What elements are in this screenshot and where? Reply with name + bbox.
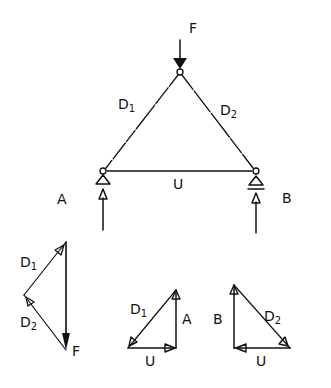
- triangle-b-u-label: U: [256, 353, 266, 369]
- support-a-label: A: [57, 191, 67, 207]
- force-triangle-a: D1 A U: [128, 290, 192, 369]
- member-d2: [182, 75, 253, 168]
- support-b-label: B: [282, 190, 292, 206]
- node-a: [100, 168, 106, 174]
- polygon-f-label: F: [72, 343, 80, 359]
- triangle-a-d1-label: D1: [130, 301, 147, 319]
- triangle-a-u-label: U: [145, 353, 155, 369]
- force-polygon-node-f: D1 D2 F: [20, 242, 80, 359]
- vector-d2-head-icon: [26, 297, 34, 306]
- member-d2-label: D2: [220, 102, 237, 120]
- polygon-d2-label: D2: [20, 314, 37, 332]
- triangle-a-a-label: A: [182, 311, 192, 327]
- node-top: [177, 69, 183, 75]
- polygon-d1-label: D1: [20, 254, 37, 272]
- node-b: [253, 168, 259, 174]
- vector-d1-a: [128, 290, 176, 348]
- member-u-label: U: [173, 176, 183, 192]
- truss-diagram: F D1 D2 U A B D1 D2 F: [0, 0, 331, 388]
- triangle-b-b-label: B: [213, 311, 223, 327]
- vector-f-head-icon: [62, 333, 70, 350]
- load-arrow-head-icon: [173, 58, 187, 69]
- triangle-b-d2-label: D2: [264, 308, 281, 326]
- member-d1: [106, 75, 178, 168]
- load-label: F: [189, 20, 197, 36]
- vector-d2-b: [234, 285, 290, 348]
- support-a-icon: [96, 175, 110, 184]
- truss: F D1 D2 U A B: [57, 20, 292, 233]
- member-d1-label: D1: [118, 96, 135, 114]
- support-b-icon: [249, 176, 263, 185]
- force-triangle-b: B D2 U: [213, 285, 290, 369]
